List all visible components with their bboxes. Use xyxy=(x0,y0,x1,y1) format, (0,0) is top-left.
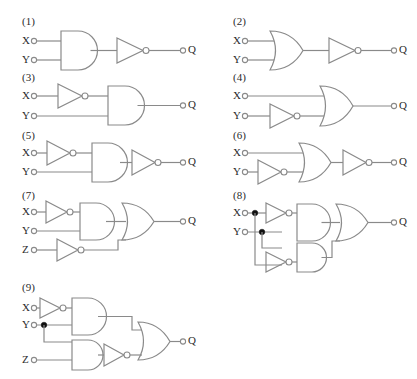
circuit-8-output-q-terminal[interactable] xyxy=(391,220,396,225)
circuit-9-not-out-bubble-icon xyxy=(124,352,130,358)
circuit-6-number: (6) xyxy=(233,129,246,142)
circuit-8-not-gate-x[interactable] xyxy=(266,203,286,223)
circuit-5-input-y-label: Y xyxy=(22,165,30,177)
circuit-3-output-q-terminal[interactable] xyxy=(180,103,185,108)
circuit-2-input-y-label: Y xyxy=(233,53,241,65)
circuit-8-input-x-terminal[interactable] xyxy=(242,210,247,215)
circuit-6-input-x-terminal[interactable] xyxy=(242,150,247,155)
circuit-4-not-bubble-icon xyxy=(294,113,300,119)
circuit-1-input-y-label: Y xyxy=(22,53,30,65)
circuit-2-input-x-terminal[interactable] xyxy=(242,38,247,43)
circuit-2-number: (2) xyxy=(233,15,246,28)
circuit-5-output-q-label: Q xyxy=(188,155,196,167)
circuit-4: (4) X Y Q xyxy=(233,71,407,128)
circuit-6-output-q-terminal[interactable] xyxy=(391,160,396,165)
circuit-6-input-y-terminal[interactable] xyxy=(242,169,247,174)
circuit-9-output-q-terminal[interactable] xyxy=(180,339,185,344)
circuit-4-or-gate[interactable] xyxy=(320,86,353,126)
circuit-4-input-x-label: X xyxy=(233,89,241,101)
circuit-7-not-gate-x[interactable] xyxy=(46,201,67,223)
circuit-4-not-gate[interactable] xyxy=(270,104,294,128)
circuit-8-not-y-bubble-icon xyxy=(286,259,292,265)
circuit-7-input-x-label: X xyxy=(22,205,30,217)
circuit-3-input-y-label: Y xyxy=(22,109,30,121)
circuit-9-not-gate-x[interactable] xyxy=(40,298,60,318)
circuit-6: (6) X Y Q xyxy=(233,129,407,184)
circuit-6-or-gate[interactable] xyxy=(299,143,331,182)
circuit-1: (1) X Y Q xyxy=(22,15,196,70)
circuit-5-input-x-label: X xyxy=(22,146,30,158)
circuit-8-wire-y-branch-down xyxy=(262,232,282,248)
circuit-3: (3) X Y Q xyxy=(22,71,196,125)
circuit-7-input-z-terminal[interactable] xyxy=(31,247,36,252)
circuit-5-not-bubble-icon xyxy=(70,150,76,156)
circuit-9: (9) X Y Z xyxy=(22,281,196,370)
circuit-3-number: (3) xyxy=(22,71,35,84)
circuit-8-input-y-label: Y xyxy=(233,225,241,237)
circuit-5-output-not-bubble-icon xyxy=(155,160,161,166)
circuit-1-output-q-terminal[interactable] xyxy=(180,48,185,53)
circuit-2-output-q-label: Q xyxy=(399,43,407,55)
circuit-6-output-not-gate[interactable] xyxy=(343,150,366,175)
circuit-2-output-q-terminal[interactable] xyxy=(391,48,396,53)
circuit-1-input-x-terminal[interactable] xyxy=(31,38,36,43)
circuit-7-output-q-label: Q xyxy=(188,214,196,226)
circuit-5-input-x-terminal[interactable] xyxy=(31,150,36,155)
circuit-9-not-gate-out[interactable] xyxy=(104,344,124,366)
circuit-7-not-gate-z[interactable] xyxy=(57,239,78,261)
circuit-9-input-y-label: Y xyxy=(22,318,30,330)
circuit-9-input-x-label: X xyxy=(22,301,30,313)
circuit-7-output-q-terminal[interactable] xyxy=(180,219,185,224)
circuit-1-input-x-label: X xyxy=(22,34,30,46)
circuit-2-not-bubble-icon xyxy=(355,48,361,54)
circuit-5: (5) X Y Q xyxy=(22,129,196,182)
circuit-7-input-z-label: Z xyxy=(22,243,29,255)
circuit-9-number: (9) xyxy=(22,281,35,294)
circuit-diagram-canvas: (1) X Y Q (2) X Y xyxy=(0,0,417,379)
circuit-5-not-gate[interactable] xyxy=(47,141,70,165)
circuit-5-number: (5) xyxy=(22,129,35,142)
circuit-9-wire-and-upper-to-or xyxy=(98,317,142,331)
circuit-6-input-y-label: Y xyxy=(233,165,241,177)
circuit-6-input-x-label: X xyxy=(233,146,241,158)
circuit-2: (2) X Y Q xyxy=(233,15,407,70)
circuit-9-wire-y-branch-down xyxy=(44,325,72,342)
circuit-2-or-gate[interactable] xyxy=(270,31,303,70)
circuit-4-number: (4) xyxy=(233,71,246,84)
circuit-5-input-y-terminal[interactable] xyxy=(31,169,36,174)
circuit-9-input-z-terminal[interactable] xyxy=(31,357,36,362)
circuit-7-wire-notz-to-or xyxy=(84,240,126,250)
circuit-7-or-gate[interactable] xyxy=(122,203,154,240)
circuit-3-input-x-terminal[interactable] xyxy=(31,93,36,98)
circuit-9-or-gate[interactable] xyxy=(138,322,170,360)
circuit-4-input-y-terminal[interactable] xyxy=(242,113,247,118)
circuit-1-input-y-terminal[interactable] xyxy=(31,57,36,62)
circuit-5-output-q-terminal[interactable] xyxy=(180,160,185,165)
circuit-3-not-gate[interactable] xyxy=(58,84,82,108)
circuit-4-input-x-terminal[interactable] xyxy=(242,93,247,98)
circuit-6-not-bubble-icon xyxy=(281,169,287,175)
circuit-1-not-gate[interactable] xyxy=(117,38,143,63)
circuit-6-output-q-label: Q xyxy=(399,155,407,167)
circuit-9-input-y-terminal[interactable] xyxy=(31,322,36,327)
circuit-5-output-not-gate[interactable] xyxy=(132,150,155,175)
circuit-9-input-x-terminal[interactable] xyxy=(31,305,36,310)
circuit-4-output-q-terminal[interactable] xyxy=(391,103,396,108)
circuit-2-not-gate[interactable] xyxy=(329,38,355,63)
circuit-8-input-x-label: X xyxy=(233,206,241,218)
circuit-9-input-z-label: Z xyxy=(22,353,29,365)
circuit-3-input-y-terminal[interactable] xyxy=(31,113,36,118)
circuit-8-input-y-terminal[interactable] xyxy=(242,229,247,234)
circuit-7-input-x-terminal[interactable] xyxy=(31,209,36,214)
circuit-7-number: (7) xyxy=(22,189,35,202)
circuit-3-input-x-label: X xyxy=(22,89,30,101)
circuit-2-input-y-terminal[interactable] xyxy=(242,57,247,62)
circuit-8-or-gate[interactable] xyxy=(336,204,368,241)
circuit-8-not-gate-y[interactable] xyxy=(266,252,286,272)
circuit-7-input-y-label: Y xyxy=(22,224,30,236)
circuit-9-not-x-bubble-icon xyxy=(60,305,66,311)
circuit-7: (7) X Y Z Q xyxy=(22,189,196,261)
circuit-7-input-y-terminal[interactable] xyxy=(31,228,36,233)
logic-circuit-worksheet: (1) X Y Q (2) X Y xyxy=(0,0,417,379)
circuit-6-not-gate[interactable] xyxy=(258,160,281,184)
